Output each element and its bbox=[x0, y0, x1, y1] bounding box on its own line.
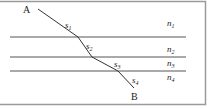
point-b-label: B bbox=[131, 91, 138, 102]
segment-label-s2: s2 bbox=[86, 41, 93, 52]
segment-label-s3: s3 bbox=[114, 59, 121, 70]
medium-label-n1: n1 bbox=[167, 18, 175, 29]
medium-label-n3: n3 bbox=[167, 58, 175, 69]
diagram-frame: A B s1 s2 s3 s4 n1 n2 n3 n4 bbox=[0, 0, 210, 109]
point-a-label: A bbox=[23, 4, 31, 15]
frame-border bbox=[0, 2, 206, 105]
refraction-diagram: A B s1 s2 s3 s4 n1 n2 n3 n4 bbox=[0, 0, 210, 109]
segment-label-s4: s4 bbox=[132, 75, 139, 86]
segment-label-s1: s1 bbox=[65, 20, 72, 31]
medium-label-n2: n2 bbox=[167, 44, 175, 55]
medium-label-n4: n4 bbox=[167, 72, 175, 83]
